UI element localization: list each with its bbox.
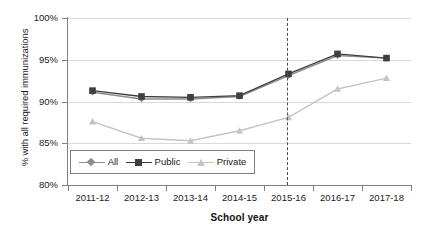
legend-marker-triangle-icon <box>188 156 214 168</box>
legend-label-public: Public <box>154 157 181 167</box>
immunization-line-chart: % with all required immunizations 80%85%… <box>0 0 427 233</box>
data-point-public-2011-12 <box>89 87 96 94</box>
legend-marker-square-icon <box>126 156 152 168</box>
legend-label-all: All <box>107 157 119 167</box>
legend-marker-diamond-icon <box>79 156 105 168</box>
chart-legend[interactable]: All Public Private <box>70 150 255 174</box>
data-point-public-2012-13 <box>138 93 145 100</box>
series-layer <box>0 0 427 233</box>
legend-item-private[interactable]: Private <box>188 156 247 168</box>
data-point-public-2017-18 <box>383 55 390 62</box>
data-point-public-2014-15 <box>236 92 243 99</box>
data-point-public-2013-14 <box>187 94 194 101</box>
data-point-private-2017-18 <box>383 75 390 81</box>
vertical-dashed-annotation-line <box>287 18 288 185</box>
x-axis-title: School year <box>68 212 411 223</box>
data-point-private-2011-12 <box>89 118 96 124</box>
legend-label-private: Private <box>216 157 247 167</box>
data-point-public-2016-17 <box>334 51 341 58</box>
series-line-public <box>93 54 387 97</box>
legend-item-public[interactable]: Public <box>126 156 181 168</box>
legend-item-all[interactable]: All <box>79 156 119 168</box>
